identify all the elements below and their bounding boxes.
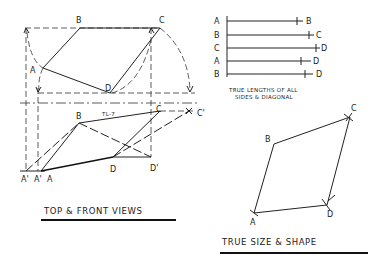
row-end-label: B (306, 17, 312, 26)
row-start-label: A (214, 17, 220, 26)
label-b: B (76, 16, 82, 25)
label-a: A (30, 66, 36, 75)
label-a: A (250, 218, 256, 227)
row-end-label: D (321, 44, 327, 53)
label-a-prime-1: A' (21, 175, 29, 184)
row-end-label: D (316, 70, 322, 79)
row-end-label: D (313, 57, 319, 66)
arrow-icon (149, 28, 154, 33)
fold-label: TL-7 (101, 111, 115, 117)
c-mark-icon (344, 113, 353, 121)
row-start-label: B (214, 70, 220, 79)
true-shape: B C D A (250, 104, 357, 227)
true-lengths-table: A B B C C D A D B D TRUE LENGTHS OF ALL … (214, 16, 327, 100)
label-c: C (159, 16, 165, 25)
row-start-label: A (214, 57, 220, 66)
arrow-icon (24, 28, 29, 33)
d-mark-icon (322, 195, 335, 210)
label-d: D (110, 165, 116, 174)
label-c: C (351, 104, 357, 113)
label-d: D (105, 84, 111, 93)
edge-ad (41, 157, 113, 171)
label-c: C (156, 105, 162, 114)
row-start-label: B (214, 31, 220, 40)
label-a: A (47, 175, 53, 184)
row-end-label: C (316, 31, 322, 40)
caption-top-front-views: TOP & FRONT VIEWS (43, 206, 142, 216)
label-d: D (327, 210, 333, 219)
label-d-prime: D' (150, 164, 158, 173)
true-lengths-caption-1: TRUE LENGTHS OF ALL (228, 87, 298, 93)
edge-ab (41, 123, 79, 171)
row-start-label: C (214, 44, 220, 53)
rotation-arc-a-top (27, 32, 43, 68)
front-view: B TL-7 C C' D D' A' A' A (20, 105, 205, 184)
top-view-quadrilateral (43, 28, 160, 93)
label-c-prime: C' (197, 109, 205, 118)
label-b: B (265, 135, 271, 144)
descriptive-geometry-drawing: B C A D B TL-7 C C' D D' A' A' A TOP & F… (0, 0, 377, 265)
label-b: B (76, 112, 82, 121)
rotation-arc-c (160, 28, 190, 90)
edge-bc (79, 111, 160, 123)
caption-true-size-shape: TRUE SIZE & SHAPE (221, 237, 317, 247)
rotation-arc-a-bottom (39, 68, 43, 90)
true-shape-quadrilateral (254, 117, 350, 213)
edge-a-prime-b (26, 123, 79, 171)
label-a-prime-2: A' (34, 175, 42, 184)
top-view: B C A D (20, 16, 200, 171)
true-lengths-caption-2: SIDES & DIAGONAL (235, 94, 294, 100)
